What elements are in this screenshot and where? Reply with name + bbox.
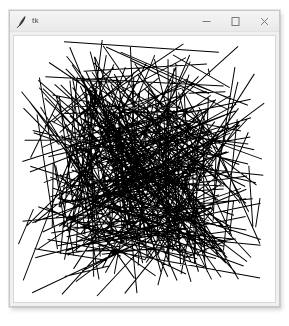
maximize-icon <box>230 16 241 27</box>
line-segments <box>18 40 264 296</box>
minimize-button[interactable] <box>192 11 221 31</box>
window-titlebar[interactable]: tk <box>10 11 279 32</box>
random-lines-canvas[interactable] <box>14 36 275 302</box>
close-icon <box>259 16 270 27</box>
feather-pen-icon <box>15 15 28 28</box>
tk-window[interactable]: tk <box>9 10 280 307</box>
minimize-icon <box>201 16 212 27</box>
tk-canvas-area[interactable] <box>13 35 276 303</box>
window-title-label: tk <box>32 17 39 25</box>
maximize-button[interactable] <box>221 11 250 31</box>
desktop-background: tk <box>0 0 289 326</box>
close-button[interactable] <box>250 11 279 31</box>
